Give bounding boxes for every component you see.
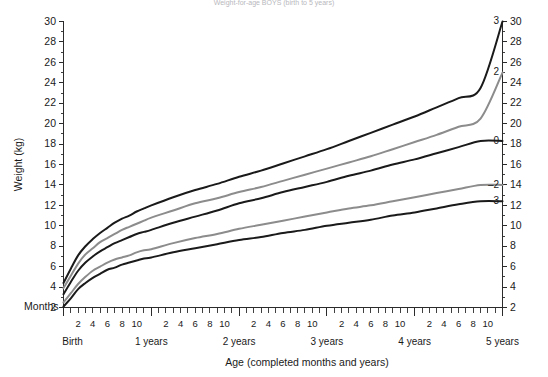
x-axis-tick-label: 8	[471, 318, 476, 329]
x-axis-tick-label: 10	[131, 318, 142, 329]
x-axis-tick-label: 2	[339, 318, 344, 329]
y-axis-tick-label-right: 8	[510, 239, 516, 251]
y-axis-tick-label-right: 12	[510, 199, 522, 211]
x-axis-tick-label: 10	[395, 318, 406, 329]
y-axis-tick-label-left: 20	[44, 117, 56, 129]
x-axis-tick-label: 4	[178, 318, 183, 329]
y-axis-tick-label-left: 16	[44, 158, 56, 170]
x-axis-year-label: 5 years	[486, 336, 519, 347]
x-axis-tick-label: 2	[251, 318, 256, 329]
curve-label-zminus2: –2	[488, 179, 500, 190]
y-axis-tick-label-left: 8	[50, 239, 56, 251]
x-axis-tick-label: 8	[119, 318, 124, 329]
x-axis-tick-label: 10	[307, 318, 318, 329]
y-axis-tick-label-right: 18	[510, 137, 522, 149]
y-axis-tick-label-left: 4	[50, 280, 56, 292]
y-axis-tick-label-left: 12	[44, 199, 56, 211]
chart-title: Weight-for-age BOYS (birth to 5 years)	[214, 0, 334, 7]
x-axis-year-label: 1 years	[135, 336, 168, 347]
y-axis-tick-label-left: 14	[44, 178, 56, 190]
weight-for-age-chart: Weight-for-age BOYS (birth to 5 years)24…	[0, 0, 548, 377]
x-axis-tick-label: 6	[105, 318, 110, 329]
x-axis-tick-label: 4	[266, 318, 271, 329]
x-axis-tick-label: 2	[163, 318, 168, 329]
x-axis-tick-label: 4	[90, 318, 95, 329]
x-axis-tick-label: 10	[219, 318, 230, 329]
y-axis-tick-label-right: 4	[510, 280, 516, 292]
x-axis-tick-label: 6	[280, 318, 285, 329]
y-axis-tick-label-left: 22	[44, 96, 56, 108]
x-axis-tick-label: 6	[193, 318, 198, 329]
x-axis-tick-label: 6	[368, 318, 373, 329]
curve-label-z2: 2	[493, 66, 499, 77]
y-axis-tick-label-right: 24	[510, 76, 522, 88]
x-axis-tick-label: 6	[456, 318, 461, 329]
x-axis-tick-label: 10	[483, 318, 494, 329]
y-axis-tick-label-left: 18	[44, 137, 56, 149]
x-axis-tick-label: 8	[295, 318, 300, 329]
y-axis-tick-label-left: 10	[44, 219, 56, 231]
percentile-curve-zminus3	[64, 201, 503, 306]
y-axis-tick-label-left: 24	[44, 76, 56, 88]
x-axis-tick-label: 4	[354, 318, 359, 329]
x-axis-tick-label: 2	[75, 318, 80, 329]
x-axis-tick-label: 8	[207, 318, 212, 329]
x-axis-tick-label: 2	[427, 318, 432, 329]
y-axis-tick-label-right: 14	[510, 178, 522, 190]
y-axis-tick-label-right: 2	[510, 301, 516, 313]
y-axis-tick-label-right: 28	[510, 35, 522, 47]
growth-chart-container: Weight-for-age BOYS (birth to 5 years)24…	[0, 0, 548, 377]
y-axis-tick-label-right: 20	[510, 117, 522, 129]
x-axis-year-label: 4 years	[398, 336, 431, 347]
y-axis-tick-label-left: 28	[44, 35, 56, 47]
y-axis-tick-label-right: 26	[510, 56, 522, 68]
x-axis-tick-label: 8	[383, 318, 388, 329]
y-axis-tick-label-right: 22	[510, 96, 522, 108]
x-axis-year-label: 2 years	[223, 336, 256, 347]
y-axis-tick-label-right: 6	[510, 260, 516, 272]
y-axis-tick-label-left: 6	[50, 260, 56, 272]
x-axis-year-label: Birth	[62, 336, 83, 347]
y-axis-title: Weight (kg)	[12, 138, 24, 192]
months-axis-caption: Months	[24, 300, 58, 312]
percentile-curve-zminus2	[64, 185, 503, 303]
curve-label-z0: 0	[493, 135, 499, 146]
curve-label-zminus3: –3	[488, 195, 500, 206]
y-axis-tick-label-left: 30	[44, 15, 56, 27]
curve-label-z3: 3	[493, 15, 499, 26]
x-axis-title: Age (completed months and years)	[225, 356, 388, 368]
x-axis-tick-label: 4	[441, 318, 446, 329]
y-axis-tick-label-right: 10	[510, 219, 522, 231]
x-axis-year-label: 3 years	[311, 336, 344, 347]
y-axis-tick-label-right: 16	[510, 158, 522, 170]
y-axis-tick-label-left: 26	[44, 56, 56, 68]
y-axis-tick-label-right: 30	[510, 15, 522, 27]
